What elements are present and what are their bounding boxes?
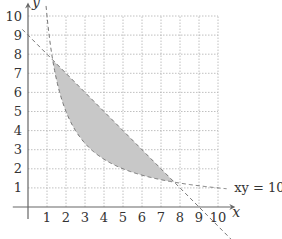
x-tick-label: 1 [43, 210, 51, 225]
grid-lines [28, 16, 218, 207]
region-plot: 1234567891012345678910 x y xy = 10 x + y… [0, 0, 282, 239]
y-axis-label: y [31, 0, 41, 10]
x-tick-label: 8 [176, 210, 184, 225]
y-tick-label: 3 [14, 142, 22, 157]
x-tick-label: 7 [157, 210, 165, 225]
x-tick-label: 4 [100, 210, 108, 225]
y-tick-label: 4 [14, 123, 22, 138]
x-tick-label: 5 [119, 210, 127, 225]
x-tick-label: 3 [81, 210, 89, 225]
hyperbola-label: xy = 10 [234, 180, 282, 195]
y-tick-label: 2 [14, 161, 22, 176]
curves [22, 6, 233, 239]
x-tick-label: 6 [138, 210, 146, 225]
line-label: x + y = 9 [235, 235, 282, 239]
y-tick-label: 1 [14, 180, 22, 195]
x-axis-label: x [232, 204, 240, 220]
y-tick-label: 9 [14, 28, 22, 43]
y-tick-label: 7 [14, 66, 22, 81]
diagram-canvas: 1234567891012345678910 x y xy = 10 x + y… [0, 0, 282, 239]
y-tick-label: 8 [14, 47, 22, 62]
tick-labels: 1234567891012345678910 [5, 9, 226, 226]
x-tick-label: 9 [195, 210, 203, 225]
y-tick-label: 10 [5, 9, 22, 24]
y-tick-label: 5 [14, 104, 22, 119]
x-tick-label: 2 [62, 210, 70, 225]
y-tick-label: 6 [14, 85, 22, 100]
x-tick-label: 10 [210, 210, 227, 225]
